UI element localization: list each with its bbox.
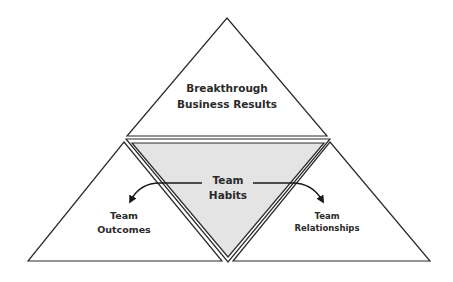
- center-label-line1: Team: [213, 174, 244, 186]
- right-label-line1: Team: [314, 211, 339, 221]
- left-label-line1: Team: [110, 210, 138, 221]
- left-label-line2: Outcomes: [97, 224, 151, 235]
- top-triangle-breakthrough-business-results: Breakthrough Business Results: [127, 18, 327, 136]
- top-label-line2: Business Results: [177, 98, 277, 110]
- right-label-line2: Relationships: [295, 223, 360, 233]
- top-label-line1: Breakthrough: [186, 82, 268, 94]
- team-pyramid-diagram: Breakthrough Business Results Team Outco…: [0, 0, 453, 282]
- center-label-line2: Habits: [209, 189, 247, 201]
